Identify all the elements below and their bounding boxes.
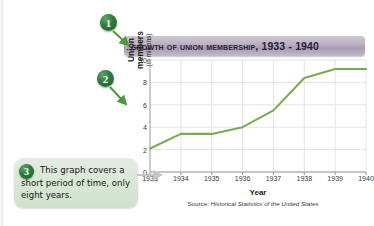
horizontal-gridlines <box>150 60 366 172</box>
y-tick-label: 4 <box>143 124 147 131</box>
x-tick-label: 1936 <box>235 175 251 182</box>
x-tick-label: 1933 <box>142 175 158 182</box>
y-tick-label: 8 <box>143 79 147 86</box>
x-tick-label: 1940 <box>358 175 374 182</box>
y-tick-label: 2 <box>143 146 147 153</box>
x-tick-label: 1935 <box>204 175 220 182</box>
vertical-gridlines <box>181 60 366 172</box>
plot-svg <box>150 60 366 172</box>
source-citation: Historical Statistics of the United Stat… <box>211 200 319 207</box>
x-tick-label: 1934 <box>173 175 189 182</box>
page-edge-shadow <box>0 0 4 226</box>
union-membership-series <box>150 69 366 149</box>
y-axis-title-main: Union members <box>127 18 145 82</box>
x-tick-label: 1938 <box>296 175 312 182</box>
x-tick-label: 1939 <box>327 175 343 182</box>
x-tick-label: 1937 <box>266 175 282 182</box>
source-note: Source: Historical Statistics of the Uni… <box>138 200 368 207</box>
callout-bubble: 3 This graph covers a short period of ti… <box>14 158 138 208</box>
y-tick-label: 6 <box>143 101 147 108</box>
line-chart: Union members (in millions) 0246810 1933… <box>128 60 368 210</box>
source-label: Source: <box>187 200 210 207</box>
callout-badge-1[interactable]: 1 <box>100 14 117 31</box>
x-axis-title: Year <box>150 188 366 197</box>
plot-area: 0246810 19331934193519361937193819391940 <box>150 60 366 172</box>
callout-badge-2[interactable]: 2 <box>97 70 114 87</box>
callout-text: This graph covers a short period of time… <box>21 164 133 202</box>
y-tick-label: 10 <box>139 57 147 64</box>
page-title: Growth of Union Membership, 1933 - 1940 <box>124 40 319 52</box>
figure-title-bar: Growth of Union Membership, 1933 - 1940 <box>124 36 365 56</box>
